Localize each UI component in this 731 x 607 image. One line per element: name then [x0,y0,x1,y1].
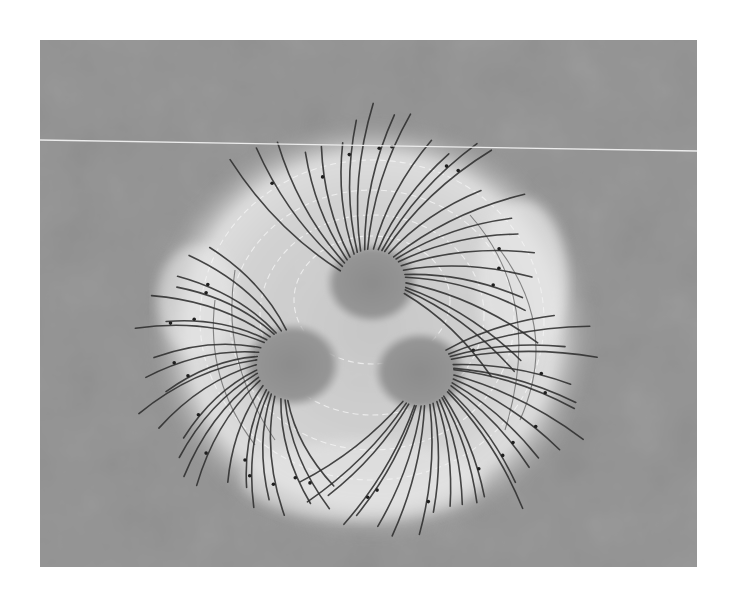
field-line-artwork [40,40,697,567]
photograph [40,40,697,567]
